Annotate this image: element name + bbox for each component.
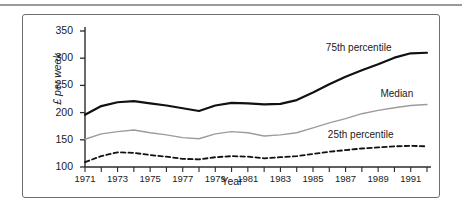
series-label-75th-percentile: 75th percentile	[326, 42, 392, 53]
chart-figure: £ per week Year 350300250200150100 19711…	[0, 0, 462, 218]
series-line-25th-percentile	[85, 146, 427, 162]
chart-frame: £ per week Year 350300250200150100 19711…	[22, 14, 440, 198]
series-label-median: Median	[380, 88, 413, 99]
series-line-75th-percentile	[85, 53, 427, 115]
series-label-25th-percentile: 25th percentile	[328, 129, 394, 140]
top-rule	[0, 4, 462, 6]
